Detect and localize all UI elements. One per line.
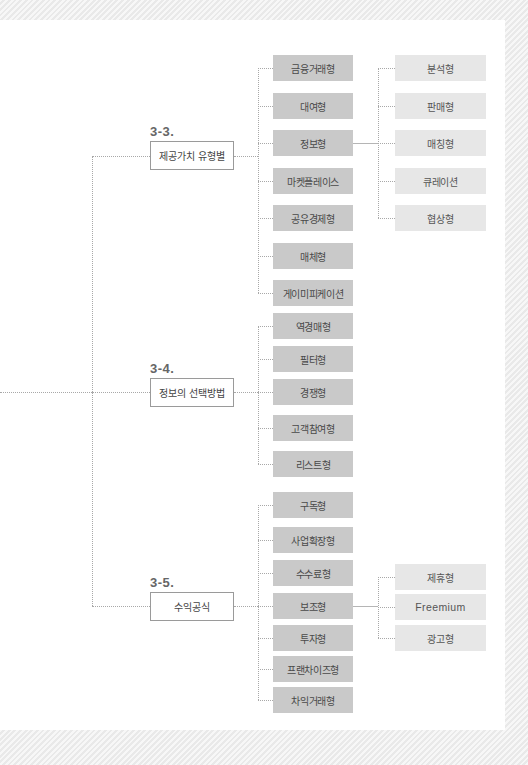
- type-node[interactable]: 필터형: [273, 346, 353, 372]
- type-node[interactable]: 수수료형: [273, 560, 353, 586]
- subtype-node-label: 광고형: [427, 631, 453, 646]
- branch-connector-3-5: [234, 606, 258, 607]
- child-connector: [258, 143, 273, 144]
- child-connector: [258, 181, 273, 182]
- category-number: 3-3.: [150, 124, 174, 139]
- type-node[interactable]: 공유경제형: [273, 205, 353, 231]
- category-label: 제공가치 유형별: [159, 148, 225, 163]
- type-node-label: 고객참여형: [291, 421, 335, 436]
- branch-connector-3-4: [234, 392, 258, 393]
- child-connector: [258, 106, 273, 107]
- type-node-label: 공유경제형: [291, 211, 335, 226]
- child-connector: [258, 326, 273, 327]
- child-connector: [258, 256, 273, 257]
- subbranch-connector: [353, 143, 378, 144]
- tree-diagram: 3-3.제공가치 유형별금융거래형대여형정보형분석형판매형매칭형큐레이션협상형마…: [0, 0, 528, 765]
- subtype-node[interactable]: 제휴형: [395, 564, 486, 590]
- subtype-node[interactable]: 매칭형: [395, 130, 486, 156]
- trunk-connector: [92, 156, 93, 607]
- type-node[interactable]: 경쟁형: [273, 379, 353, 405]
- type-node[interactable]: 정보형: [273, 130, 353, 156]
- subtype-node-label: 분석형: [427, 61, 453, 76]
- subchild-connector: [378, 68, 395, 69]
- child-connector: [258, 293, 273, 294]
- root-connector: [0, 392, 92, 393]
- category-number: 3-4.: [150, 361, 174, 376]
- category-label: 수익공식: [174, 599, 210, 614]
- category-connector-3-3: [92, 156, 150, 157]
- subtype-node-label: 매칭형: [427, 136, 453, 151]
- type-node-label: 경쟁형: [300, 385, 326, 400]
- type-node-label: 리스트형: [296, 457, 331, 472]
- type-node-label: 차익거래형: [291, 693, 335, 708]
- child-connector: [258, 464, 273, 465]
- subtype-node[interactable]: 협상형: [395, 205, 486, 231]
- category-box-3-3[interactable]: 제공가치 유형별: [150, 141, 234, 170]
- subtype-node-label: 큐레이션: [423, 174, 458, 189]
- type-node[interactable]: 금융거래형: [273, 55, 353, 81]
- type-node[interactable]: 마켓플레이스: [273, 168, 353, 194]
- type-node[interactable]: 프랜차이즈형: [273, 656, 353, 682]
- category-connector-3-5: [92, 606, 150, 607]
- type-node-label: 역경매형: [296, 319, 331, 334]
- subchild-connector: [378, 218, 395, 219]
- category-connector-3-4: [92, 392, 150, 393]
- type-node[interactable]: 대여형: [273, 93, 353, 119]
- subtype-node[interactable]: 판매형: [395, 93, 486, 119]
- category-label: 정보의 선택방법: [159, 385, 225, 400]
- subchild-connector: [378, 143, 395, 144]
- type-node-label: 수수료형: [296, 566, 331, 581]
- subtype-node[interactable]: 광고형: [395, 625, 486, 651]
- child-connector: [258, 700, 273, 701]
- type-node[interactable]: 리스트형: [273, 451, 353, 477]
- subtype-node[interactable]: Freemium: [395, 594, 486, 620]
- type-node-label: 매체형: [300, 249, 326, 264]
- child-connector: [258, 359, 273, 360]
- child-connector: [258, 540, 273, 541]
- type-node-label: 게이미피케이션: [283, 286, 344, 301]
- subtype-node-label: 협상형: [427, 211, 453, 226]
- subchild-connector: [378, 106, 395, 107]
- type-node-label: 투자형: [300, 631, 326, 646]
- type-node[interactable]: 게이미피케이션: [273, 280, 353, 306]
- type-node-label: 프랜차이즈형: [287, 662, 339, 677]
- type-node-label: 대여형: [300, 99, 326, 114]
- type-node[interactable]: 사업확장형: [273, 527, 353, 553]
- type-node[interactable]: 투자형: [273, 625, 353, 651]
- type-node-label: 필터형: [300, 352, 326, 367]
- branch-vertical-3-4: [258, 326, 259, 464]
- type-node-label: 금융거래형: [291, 61, 335, 76]
- child-connector: [258, 638, 273, 639]
- child-connector: [258, 573, 273, 574]
- type-node[interactable]: 매체형: [273, 243, 353, 269]
- category-number: 3-5.: [150, 575, 174, 590]
- type-node[interactable]: 구독형: [273, 492, 353, 518]
- child-connector: [258, 606, 273, 607]
- child-connector: [258, 505, 273, 506]
- subchild-connector: [378, 181, 395, 182]
- type-node-label: 마켓플레이스: [287, 174, 339, 189]
- child-connector: [258, 218, 273, 219]
- type-node[interactable]: 역경매형: [273, 313, 353, 339]
- category-box-3-5[interactable]: 수익공식: [150, 592, 234, 621]
- child-connector: [258, 392, 273, 393]
- category-box-3-4[interactable]: 정보의 선택방법: [150, 378, 234, 407]
- type-node-label: 정보형: [300, 136, 326, 151]
- subtype-node-label: Freemium: [415, 601, 465, 613]
- subchild-connector: [378, 638, 395, 639]
- subchild-connector: [378, 607, 395, 608]
- type-node[interactable]: 보조형: [273, 593, 353, 619]
- type-node-label: 구독형: [300, 498, 326, 513]
- subtype-node[interactable]: 큐레이션: [395, 168, 486, 194]
- type-node[interactable]: 차익거래형: [273, 687, 353, 713]
- child-connector: [258, 669, 273, 670]
- subtype-node-label: 판매형: [427, 99, 453, 114]
- subchild-connector: [378, 577, 395, 578]
- child-connector: [258, 428, 273, 429]
- child-connector: [258, 68, 273, 69]
- type-node-label: 보조형: [300, 599, 326, 614]
- subbranch-connector: [353, 606, 378, 607]
- subtype-node[interactable]: 분석형: [395, 55, 486, 81]
- type-node-label: 사업확장형: [291, 533, 335, 548]
- type-node[interactable]: 고객참여형: [273, 415, 353, 441]
